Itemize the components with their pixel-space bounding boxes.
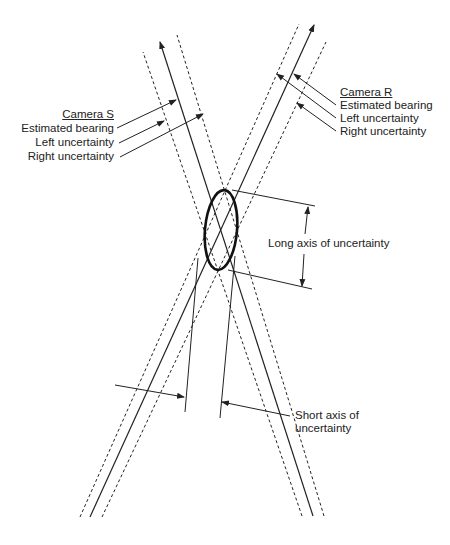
camera-r-left-uncertainty (80, 24, 299, 517)
camera-r-right-uncertainty-pointer (297, 103, 336, 131)
camera-r-estimated-bearing-pointer (294, 74, 336, 105)
camera-r-left-uncertainty-label: Left uncertainty (340, 112, 419, 125)
camera-s-left-uncertainty-label: Left uncertainty (35, 136, 114, 149)
short-axis-label-line2: uncertainty (295, 422, 351, 435)
camera-s-callouts (117, 100, 203, 157)
triangulation-diagram (0, 0, 450, 545)
camera-r-left-uncertainty-pointer (277, 74, 336, 118)
camera-r-right-uncertainty-label: Right uncertainty (340, 125, 426, 138)
camera-s-title: Camera S (62, 108, 114, 121)
short-axis-arrows (115, 385, 290, 416)
short-axis-label-line1: Short axis of (295, 409, 359, 422)
long-axis-label: Long axis of uncertainty (266, 237, 391, 250)
camera-r-estimated-bearing-label: Estimated bearing (340, 99, 433, 112)
camera-s-right-uncertainty-label: Right uncertainty (28, 150, 114, 163)
short-axis-extensions (185, 256, 235, 418)
camera-s-estimated-bearing-label: Estimated bearing (21, 122, 114, 135)
camera-s-estimated-bearing (160, 42, 313, 516)
camera-r-right-uncertainty (102, 42, 326, 517)
camera-s-left-uncertainty (143, 52, 302, 516)
camera-r-estimated-bearing (90, 25, 314, 517)
camera-r-title: Camera R (340, 86, 392, 99)
